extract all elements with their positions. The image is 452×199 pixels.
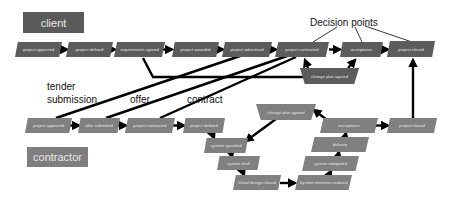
contractor-node-change-plan-agreed[interactable]: change plan agreed: [256, 104, 316, 120]
process-diagram: client contractor Decision points tender…: [0, 0, 452, 199]
client-lane-label: client: [23, 12, 84, 33]
contractor-node-system-specified[interactable]: system specified: [204, 138, 248, 153]
tender-label-line2: submission: [47, 94, 97, 105]
contractor-lane-label: contractor: [27, 147, 88, 167]
contractor-node-delivery[interactable]: delivery: [311, 137, 369, 152]
contractor-node-system-draft[interactable]: system draft: [217, 156, 260, 170]
offer-label: offer: [130, 94, 150, 105]
contractor-node-system-integrated[interactable]: system integrated: [302, 156, 359, 171]
client-node-change-plan-agreed[interactable]: change plan agreed: [300, 68, 359, 84]
contractor-node-project-defined[interactable]: project defined: [183, 118, 225, 133]
client-node-project-advertised[interactable]: project advertised: [222, 42, 272, 57]
contractor-node-system-elements-realized[interactable]: System elements realized: [295, 175, 352, 190]
contractor-node-acceptance[interactable]: acceptance: [320, 118, 378, 133]
decision-points-label: Decision points: [310, 17, 378, 28]
contractor-node-project-contracted[interactable]: project contracted: [125, 118, 175, 133]
contractor-node-offer-submitted[interactable]: offer submitted: [78, 118, 120, 133]
client-node-requirements-agreed[interactable]: requirements agreed: [114, 42, 165, 57]
client-node-acceptance[interactable]: acceptance: [340, 42, 383, 57]
contractor-node-detail-design-closed[interactable]: Detail design closed: [233, 175, 281, 190]
client-node-project-awarded[interactable]: project awarded: [172, 42, 219, 57]
client-node-project-defined[interactable]: project defined: [66, 42, 113, 57]
contract-label: contract: [187, 94, 223, 105]
client-node-project-approved[interactable]: project approved: [15, 42, 62, 57]
contractor-node-project-approved[interactable]: project approved: [25, 118, 72, 133]
client-node-project-contracted[interactable]: project contracted: [275, 42, 329, 57]
contractor-node-project-closed[interactable]: project closed: [387, 118, 437, 133]
tender-label-line1: tender: [47, 81, 75, 92]
client-node-project-closed[interactable]: project closed: [387, 41, 435, 57]
